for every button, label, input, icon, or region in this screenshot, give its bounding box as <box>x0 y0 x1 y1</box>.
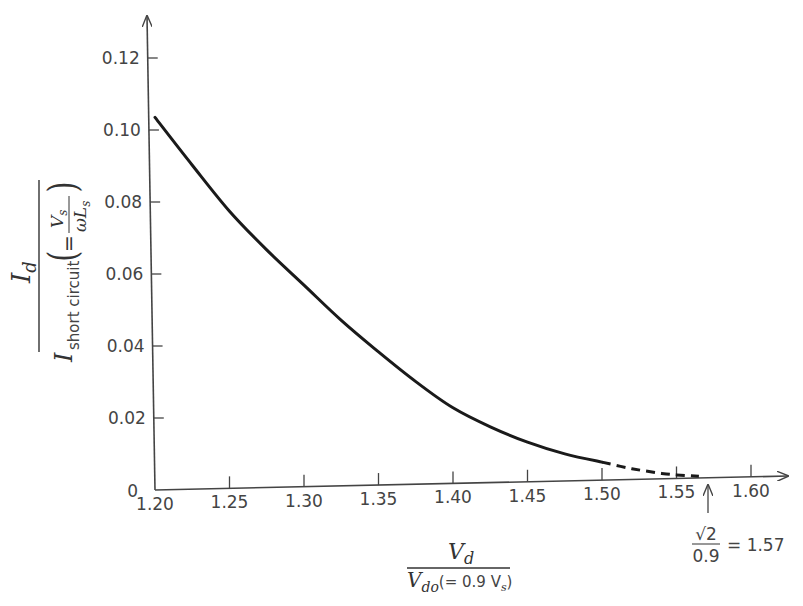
y-axis-label: Id I short circuit ( = Vs ωLs ) <box>6 180 93 363</box>
svg-text:I: I <box>50 352 78 363</box>
x-ticks: 1.201.251.301.351.401.451.501.551.60 <box>136 465 770 514</box>
x-label-denominator: Vdo(= 0.9 Vs) <box>407 568 512 595</box>
y-tick-label: 0.06 <box>105 264 143 284</box>
x-tick-label: 1.20 <box>136 494 174 514</box>
annotation-numerator: √2 <box>695 524 717 544</box>
chart: 00.020.040.060.080.100.12 1.201.251.301.… <box>0 0 803 606</box>
x-tick-label: 1.45 <box>509 486 547 506</box>
svg-text:): ) <box>39 182 85 193</box>
x-tick-label: 1.30 <box>285 491 323 511</box>
y-tick-label: 0.10 <box>103 120 141 140</box>
curve-solid <box>155 117 602 462</box>
svg-text:short circuit: short circuit <box>65 261 83 350</box>
y-tick-label: 0.02 <box>108 408 146 428</box>
x-tick-label: 1.35 <box>360 489 398 509</box>
annotation-denominator: 0.9 <box>692 546 719 566</box>
y-axis <box>147 16 155 490</box>
y-tick-label: 0.12 <box>102 48 140 68</box>
svg-text:Vs: Vs <box>47 210 70 228</box>
curve-dashed <box>602 462 699 476</box>
x-tick-label: 1.25 <box>211 492 249 512</box>
x-tick-label: 1.55 <box>658 482 696 502</box>
y-label-denominator: I short circuit ( = Vs ωLs ) <box>39 182 93 363</box>
annotation-result: = 1.57 <box>727 535 785 555</box>
x-tick-label: 1.40 <box>434 487 472 507</box>
x-tick-label: 1.60 <box>732 481 770 501</box>
x-tick-label: 1.50 <box>583 484 621 504</box>
x-label-numerator: Vd <box>448 539 474 568</box>
y-tick-label: 0.04 <box>107 336 145 356</box>
y-label-numerator: Id <box>6 261 40 284</box>
x-axis-label: Vd Vdo(= 0.9 Vs) <box>407 539 512 595</box>
svg-text:ωLs: ωLs <box>70 201 93 232</box>
svg-text:=: = <box>57 235 81 252</box>
y-tick-label: 0.08 <box>104 192 142 212</box>
